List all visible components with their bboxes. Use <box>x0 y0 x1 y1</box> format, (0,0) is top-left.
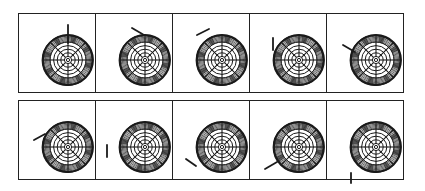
target-figure <box>327 14 404 94</box>
marker-line <box>265 162 277 169</box>
panel <box>327 101 403 179</box>
panel <box>327 14 403 92</box>
panel-row-1 <box>18 13 404 93</box>
target-figure <box>173 14 250 94</box>
target-figure <box>96 14 173 94</box>
marker-line <box>186 159 196 166</box>
panel <box>19 14 96 92</box>
target-figure <box>96 101 173 181</box>
panel <box>250 101 327 179</box>
panel <box>96 14 173 92</box>
marker-line <box>197 29 209 35</box>
target-figure <box>250 14 327 94</box>
panel <box>96 101 173 179</box>
target-figure <box>327 101 404 181</box>
target-figure <box>173 101 250 181</box>
panel <box>19 101 96 179</box>
panel-row-2 <box>18 100 404 180</box>
target-figure <box>19 101 96 181</box>
target-figure <box>250 101 327 181</box>
target-figure <box>19 14 96 94</box>
panel <box>250 14 327 92</box>
marker-line <box>132 28 144 35</box>
panel <box>173 101 250 179</box>
panel <box>173 14 250 92</box>
